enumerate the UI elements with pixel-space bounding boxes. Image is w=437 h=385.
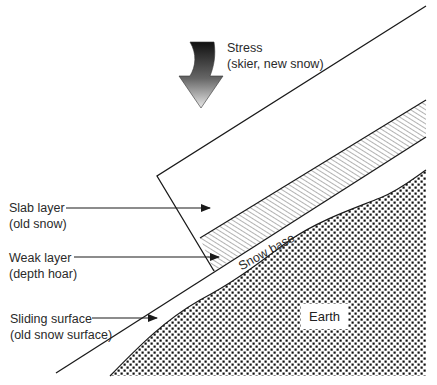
slab-layer-label: Slab layer (old snow)	[9, 200, 67, 232]
sliding-surface-subtitle: (old snow surface)	[10, 327, 112, 343]
weak-layer-label: Weak layer (depth hoar)	[9, 250, 77, 282]
sliding-surface-label: Sliding surface (old snow surface)	[10, 311, 112, 343]
avalanche-diagram: Stress (skier, new snow) Slab layer (old…	[0, 0, 437, 385]
stress-label: Stress (skier, new snow)	[227, 40, 324, 72]
slab-layer-title: Slab layer	[9, 200, 67, 216]
slab-layer-subtitle: (old snow)	[9, 216, 67, 232]
earth-label: Earth	[301, 304, 348, 329]
stress-label-subtitle: (skier, new snow)	[227, 56, 324, 72]
sliding-surface-title: Sliding surface	[10, 311, 112, 327]
stress-label-title: Stress	[227, 40, 324, 56]
weak-layer-title: Weak layer	[9, 250, 77, 266]
stress-arrow-icon	[179, 42, 223, 108]
weak-layer-subtitle: (depth hoar)	[9, 266, 77, 282]
